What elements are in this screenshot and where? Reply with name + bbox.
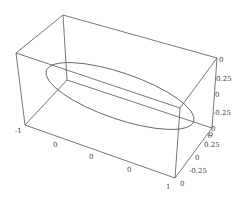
- bounding-box: [16, 15, 217, 178]
- svg-text:0: 0: [195, 154, 199, 162]
- svg-text:0: 0: [219, 56, 223, 64]
- svg-text:0.25: 0.25: [216, 75, 232, 83]
- svg-text:0: 0: [215, 91, 219, 99]
- 3d-plot: -1 0 0 0 1 0 0.25 0 -0.25 0 0.25 0 -0.25…: [0, 0, 245, 201]
- svg-text:0: 0: [53, 141, 57, 149]
- x-axis-ticks: -1 0 0 0 1: [15, 127, 170, 191]
- svg-text:0.25: 0.25: [204, 141, 220, 149]
- svg-text:-1: -1: [15, 127, 22, 135]
- svg-text:-0.25: -0.25: [213, 109, 231, 117]
- svg-text:1: 1: [166, 183, 170, 191]
- ellipse-curve: [39, 49, 201, 143]
- y-axis-label: θ: [208, 131, 213, 140]
- svg-text:-0.25: -0.25: [189, 167, 207, 175]
- svg-text:0: 0: [180, 180, 184, 188]
- svg-text:0: 0: [127, 166, 131, 174]
- y-axis-ticks: 0.25 0 -0.25 0: [180, 141, 220, 188]
- z-axis-ticks: 0 0.25 0 -0.25 0: [211, 56, 232, 133]
- svg-text:0: 0: [89, 153, 93, 161]
